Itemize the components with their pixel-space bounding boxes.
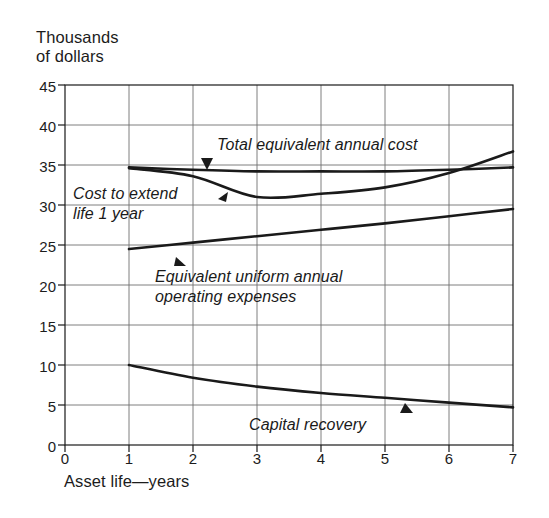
y-tick-marks	[58, 85, 65, 445]
annotation-capital-recovery: Capital recovery	[249, 415, 366, 435]
annotation-cost-to-extend-line2: life 1 year	[73, 204, 143, 224]
plot-area	[0, 0, 549, 518]
right-arrow-icon	[218, 192, 228, 202]
down-arrow-icon	[201, 158, 213, 170]
up-arrow-icon-capital	[400, 403, 413, 413]
annotation-operating-expenses-line2: operating expenses	[155, 287, 296, 307]
x-tick-marks	[65, 445, 513, 452]
annotation-cost-to-extend-line1: Cost to extend	[73, 184, 178, 204]
annotation-operating-expenses-line1: Equivalent uniform annual	[155, 267, 343, 287]
annotation-total-equivalent-annual-cost: Total equivalent annual cost	[217, 135, 418, 155]
chart-figure: Thousands of dollars Asset life—years 45…	[0, 0, 549, 518]
up-arrow-icon-operating	[174, 257, 186, 266]
